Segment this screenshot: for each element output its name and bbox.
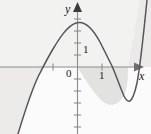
x-axis-label: x <box>139 70 144 82</box>
graph-figure: y x 0 1 1 <box>0 0 151 134</box>
cubic-graph-svg <box>0 0 151 134</box>
y-axis-tick-label-one: 1 <box>83 44 89 55</box>
y-axis-label: y <box>65 3 70 15</box>
origin-label: 0 <box>66 68 72 79</box>
x-axis-tick-label-one: 1 <box>99 70 105 81</box>
